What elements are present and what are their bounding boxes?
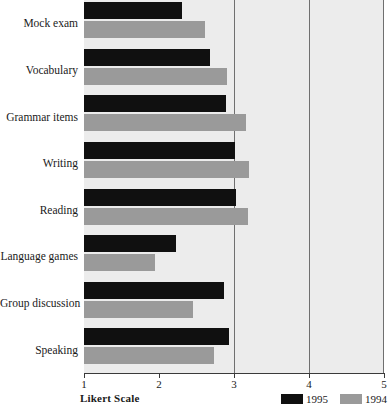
bar-1994 [84, 347, 214, 364]
bar-group [84, 0, 384, 47]
legend-label-1995: 1995 [306, 392, 328, 406]
bar-1994 [84, 68, 227, 85]
x-axis-title: Likert Scale [80, 392, 140, 404]
bar-group [84, 233, 384, 280]
bar-1995 [84, 142, 235, 159]
category-axis-labels: Mock examVocabularyGrammar itemsWritingR… [0, 0, 78, 373]
bar-1995 [84, 49, 210, 66]
x-axis-tick-label: 4 [299, 378, 319, 391]
legend-label-1994: 1994 [365, 392, 387, 406]
bar-group [84, 187, 384, 234]
x-axis-tick-label: 2 [149, 378, 169, 391]
bar-1994 [84, 301, 193, 318]
bar-group [84, 326, 384, 373]
legend-swatch-1995 [281, 394, 303, 404]
bar-group [84, 93, 384, 140]
category-label: Reading [0, 204, 78, 216]
bar-1995 [84, 95, 226, 112]
bar-group [84, 47, 384, 94]
bar-1995 [84, 235, 176, 252]
category-label: Language games [0, 250, 78, 262]
bar-1995 [84, 2, 182, 19]
category-label: Speaking [0, 344, 78, 356]
bar-1995 [84, 282, 224, 299]
bar-1994 [84, 114, 246, 131]
legend-swatch-1994 [340, 394, 362, 404]
bars-layer [84, 0, 384, 373]
bar-1994 [84, 21, 205, 38]
category-label: Grammar items [0, 111, 78, 123]
x-axis-tick-label: 5 [374, 378, 391, 391]
likert-scale-bar-chart: Mock examVocabularyGrammar itemsWritingR… [0, 0, 391, 410]
bar-1994 [84, 254, 155, 271]
category-label: Vocabulary [0, 64, 78, 76]
bar-1994 [84, 161, 249, 178]
x-axis-tick-label: 3 [224, 378, 244, 391]
bar-group [84, 140, 384, 187]
category-label: Mock exam [0, 17, 78, 29]
category-label: Group discussion [0, 297, 78, 309]
category-label: Writing [0, 157, 78, 169]
bar-1995 [84, 328, 229, 345]
bar-group [84, 280, 384, 327]
bar-1994 [84, 208, 248, 225]
bar-1995 [84, 189, 236, 206]
x-axis-tick-label: 1 [74, 378, 94, 391]
